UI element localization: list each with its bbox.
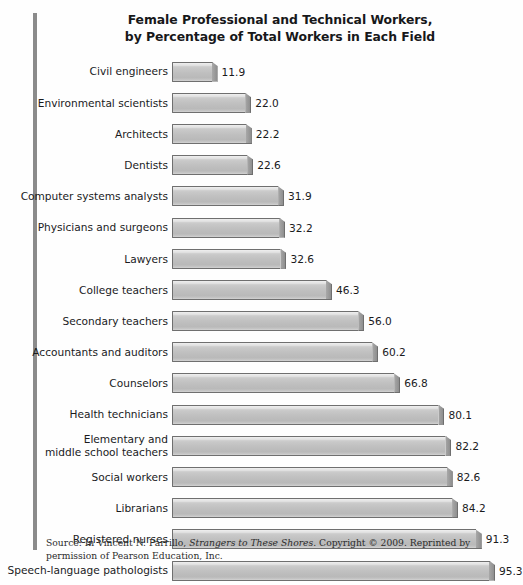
chart-title: Female Professional and Technical Worker… (60, 12, 500, 45)
bar-category-label: Secondary teachers (62, 306, 168, 337)
bar[interactable] (172, 186, 278, 206)
bar-row: College teachers46.3 (0, 274, 523, 305)
bar-wrapper (172, 337, 372, 368)
bar-wrapper (172, 461, 447, 492)
source-prefix: Source: In Vincent N. Parrillo, (46, 537, 189, 548)
bar-wrapper (172, 181, 278, 212)
bar-value-label: 22.6 (257, 150, 281, 181)
bar-category-label: Health technicians (69, 399, 168, 430)
bar-row: Secondary teachers56.0 (0, 306, 523, 337)
bar-category-label: Civil engineers (90, 56, 168, 87)
chart-title-line-1: Female Professional and Technical Worker… (60, 12, 500, 29)
bar-wrapper (172, 87, 245, 118)
bar-category-label: Environmental scientists (38, 87, 168, 118)
bar[interactable] (172, 311, 358, 331)
bar-wrapper (172, 306, 358, 337)
bar[interactable] (172, 498, 452, 518)
bar-wrapper (172, 430, 445, 461)
bar-category-label-line-1: Dentists (124, 159, 168, 171)
bar-row: Counselors66.8 (0, 368, 523, 399)
bar-category-label-line-1: Physicians and surgeons (38, 221, 168, 233)
bar-row: Computer systems analysts31.9 (0, 181, 523, 212)
bar-wrapper (172, 399, 438, 430)
bar-wrapper (172, 368, 394, 399)
bar-value-label: 56.0 (368, 306, 392, 337)
bar[interactable] (172, 405, 438, 425)
bar-value-label: 11.9 (222, 56, 246, 87)
bar-category-label-line-1: Health technicians (69, 408, 168, 420)
bar-value-label: 80.1 (448, 399, 472, 430)
bar-category-label-line-1: Speech-language pathologists (8, 564, 168, 576)
bar-wrapper (172, 118, 246, 149)
bar-wrapper (172, 150, 247, 181)
bar-value-label: 84.2 (462, 493, 486, 524)
bar[interactable] (172, 93, 245, 113)
bar-row: Environmental scientists22.0 (0, 87, 523, 118)
bar-category-label-line-1: College teachers (79, 284, 168, 296)
bar-value-label: 22.2 (256, 118, 280, 149)
bar[interactable] (172, 342, 372, 362)
bar[interactable] (172, 561, 489, 581)
bar-row: Dentists22.6 (0, 150, 523, 181)
bar-value-label: 46.3 (336, 274, 360, 305)
bar-category-label-line-2: middle school teachers (45, 446, 168, 458)
bar-wrapper (172, 212, 279, 243)
bar-row: Elementary andmiddle school teachers82.2 (0, 430, 523, 461)
bar-value-label: 82.2 (455, 430, 479, 461)
bar-category-label: Physicians and surgeons (38, 212, 168, 243)
bar[interactable] (172, 280, 326, 300)
bar-category-label-line-1: Lawyers (124, 253, 168, 265)
chart-title-line-2: by Percentage of Total Workers in Each F… (60, 29, 500, 46)
bar[interactable] (172, 373, 394, 393)
bar-value-label: 60.2 (382, 337, 406, 368)
bar-row: Architects22.2 (0, 118, 523, 149)
bar-category-label-line-1: Accountants and auditors (32, 346, 168, 358)
bar[interactable] (172, 155, 247, 175)
bar-category-label-line-1: Computer systems analysts (21, 190, 168, 202)
bar-category-label: Architects (115, 118, 168, 149)
source-note: Source: In Vincent N. Parrillo, Stranger… (46, 537, 506, 562)
bar-category-label: Lawyers (124, 243, 168, 274)
bar-category-label: Librarians (116, 493, 168, 524)
bar-category-label-line-1: Architects (115, 128, 168, 140)
bar-value-label: 32.6 (290, 243, 314, 274)
bar-value-label: 31.9 (288, 181, 312, 212)
bar-category-label-line-1: Social workers (92, 471, 168, 483)
bar[interactable] (172, 467, 447, 487)
bar-category-label-line-1: Secondary teachers (62, 315, 168, 327)
bar-wrapper (172, 274, 326, 305)
bar-wrapper (172, 243, 280, 274)
bar-value-label: 22.0 (255, 87, 279, 118)
bar[interactable] (172, 249, 280, 269)
bar-row: Physicians and surgeons32.2 (0, 212, 523, 243)
bar-row: Librarians84.2 (0, 493, 523, 524)
bar-wrapper (172, 493, 452, 524)
bar-category-label-line-1: Elementary and (84, 433, 168, 445)
bar[interactable] (172, 436, 445, 456)
bar-category-label: College teachers (79, 274, 168, 305)
bar-value-label: 32.2 (289, 212, 313, 243)
bar-value-label: 82.6 (457, 461, 481, 492)
bar-category-label-line-1: Civil engineers (90, 65, 168, 77)
bar-category-label: Accountants and auditors (32, 337, 168, 368)
bar[interactable] (172, 218, 279, 238)
bar-category-label-line-1: Environmental scientists (38, 97, 168, 109)
bar-chart-plot-area: Civil engineers11.9Environmental scienti… (0, 56, 523, 585)
bar-category-label: Computer systems analysts (21, 181, 168, 212)
bar[interactable] (172, 124, 246, 144)
bar-category-label-line-1: Librarians (116, 502, 168, 514)
bar-wrapper (172, 56, 212, 87)
bar-row: Accountants and auditors60.2 (0, 337, 523, 368)
bar-category-label: Counselors (109, 368, 168, 399)
bar[interactable] (172, 62, 212, 82)
bar-row: Social workers82.6 (0, 461, 523, 492)
bar-category-label-line-1: Counselors (109, 377, 168, 389)
bar-value-label: 66.8 (404, 368, 428, 399)
bar-category-label: Social workers (92, 461, 168, 492)
source-work-title: Strangers to These Shores (189, 537, 313, 548)
bar-category-label: Elementary andmiddle school teachers (45, 430, 168, 461)
bar-row: Health technicians80.1 (0, 399, 523, 430)
bar-row: Lawyers32.6 (0, 243, 523, 274)
bar-row: Civil engineers11.9 (0, 56, 523, 87)
